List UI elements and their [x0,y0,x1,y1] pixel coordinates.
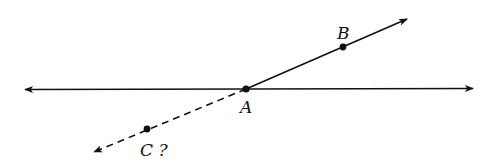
point-b [340,44,347,51]
geometry-diagram: B A C ? [0,0,494,168]
point-a [242,85,249,92]
point-c [144,126,151,133]
label-a: A [238,97,252,117]
ray-ab [246,19,407,89]
dashed-extension-ac [94,89,246,152]
label-b: B [336,23,350,43]
label-c: C ? [140,140,168,160]
